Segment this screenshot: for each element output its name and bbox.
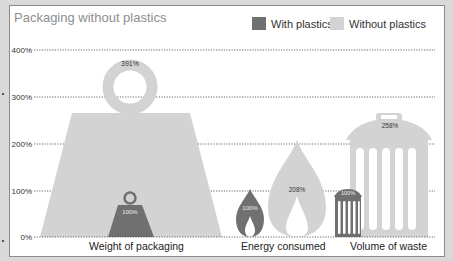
svg-text:208%: 208% [289, 186, 306, 193]
flame-icon-with [236, 189, 264, 237]
svg-text:100%: 100% [242, 205, 258, 211]
svg-text:100%: 100% [341, 190, 355, 196]
x-label-energy: Energy consumed [241, 240, 326, 252]
svg-text:391%: 391% [121, 60, 139, 67]
svg-text:100%: 100% [122, 209, 138, 215]
x-label-waste: Volume of waste [350, 240, 427, 252]
svg-text:258%: 258% [382, 122, 399, 129]
x-label-weight: Weight of packaging [89, 240, 184, 252]
chart-plot: 391% 100% 208% 100% 258% [0, 0, 453, 261]
